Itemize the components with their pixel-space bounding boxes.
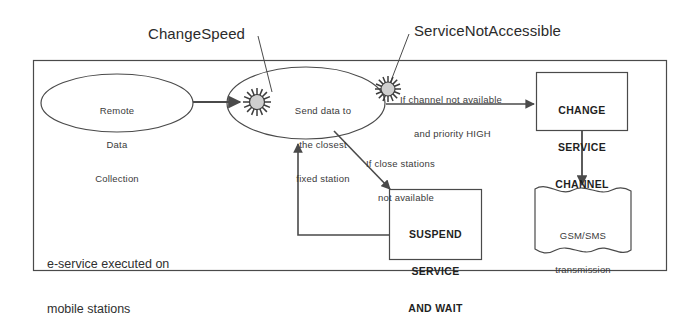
text-line: SERVICE — [537, 141, 627, 153]
text-line: mobile stations — [47, 302, 169, 317]
node-remote-data-collection-label: Remote Data Collection — [57, 83, 177, 206]
text-line: transmission — [537, 264, 629, 275]
node-change-service-channel-label: CHANGE SERVICE CHANNEL — [537, 79, 627, 215]
node-send-data-label: Send data to the closest fixed station — [272, 83, 374, 206]
text-line: fixed station — [272, 173, 374, 184]
text-line: CHANNEL — [537, 178, 627, 190]
text-line: Remote — [57, 105, 177, 116]
text-line: Send data to — [272, 105, 374, 116]
text-line: e-service executed on — [47, 257, 169, 272]
annotation-change-speed: ChangeSpeed — [148, 25, 245, 43]
text-line: the closest — [272, 139, 374, 150]
text-line: If close stations — [366, 158, 435, 169]
text-line: Data — [57, 139, 177, 150]
node-suspend-service-label: SUSPEND SERVICE AND WAIT — [390, 203, 481, 317]
text-line: Collection — [57, 173, 177, 184]
text-line: CHANGE — [537, 104, 627, 116]
text-line: SUSPEND — [390, 228, 481, 240]
node-gsm-sms-label: GSM/SMS transmission — [537, 208, 629, 298]
container-caption: e-service executed on mobile stations — [47, 226, 169, 317]
text-line: AND WAIT — [390, 302, 481, 314]
starburst-event-icon — [243, 88, 271, 116]
text-line: GSM/SMS — [537, 230, 629, 241]
text-line: SERVICE — [390, 265, 481, 277]
text-line: If channel not available — [400, 94, 502, 105]
annotation-service-not-accessible: ServiceNotAccessible — [414, 22, 561, 40]
text-line: not available — [378, 192, 435, 203]
leader-line-change-speed — [258, 36, 272, 92]
starburst-event-icon — [375, 76, 401, 102]
